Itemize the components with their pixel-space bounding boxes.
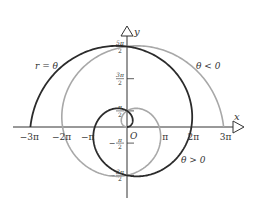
x-tick-label: 3π — [220, 132, 232, 142]
y-axis-label: y — [133, 26, 140, 37]
y-tick-sign: − — [109, 139, 116, 148]
y-tick-denominator: 2 — [118, 79, 122, 86]
branch-positive-label: θ > 0 — [181, 155, 206, 165]
y-tick-numerator: 3π — [116, 71, 125, 78]
x-axis-label: x — [234, 111, 240, 122]
curve-label: r = θ — [35, 61, 59, 71]
y-tick-numerator: π — [117, 136, 123, 143]
origin-label: O — [130, 131, 138, 141]
x-tick-label: π — [162, 132, 168, 142]
y-tick-numerator: 5π — [116, 39, 125, 46]
x-axis-arrow-icon — [233, 121, 244, 133]
x-tick-labels: −3π−2π−ππ2π3π — [20, 132, 232, 142]
y-tick-denominator: 2 — [118, 143, 122, 150]
y-axis-arrow-icon — [121, 26, 133, 36]
branch-negative-label: θ < 0 — [196, 61, 221, 71]
x-tick-label: −3π — [20, 132, 39, 142]
spiral-diagram: 5π23π2π2π2−3π2− x y O r = θ θ < 0 θ > 0 … — [0, 0, 253, 206]
y-ticks: 5π23π2π2π2−3π2− — [109, 39, 134, 182]
x-tick-label: −2π — [52, 132, 71, 142]
x-tick-label: −π — [81, 132, 95, 142]
x-tick-label: 2π — [188, 132, 200, 142]
